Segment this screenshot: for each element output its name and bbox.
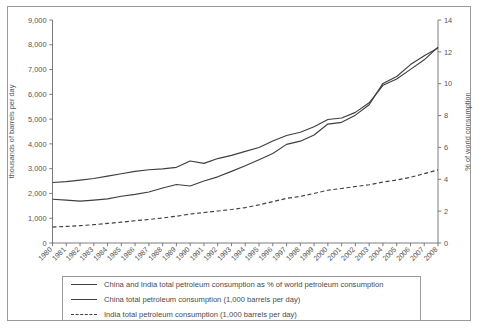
legend-line-swatch-solid-0	[71, 284, 97, 285]
y-axis-right-tick-label: 12	[444, 48, 452, 57]
series-line-0	[53, 47, 439, 182]
y-axis-left-tick-label: 5,000	[28, 115, 47, 124]
y-axis-right-title: % of world consumption	[463, 92, 472, 170]
y-axis-right-tick-label: 14	[444, 16, 452, 25]
y-axis-left-tick-label: 2,000	[28, 189, 47, 198]
y-axis-left-tick-label: 9,000	[28, 16, 47, 25]
y-axis-left-tick-label: 1,000	[28, 214, 47, 223]
y-axis-right-tick-label: 10	[444, 79, 452, 88]
x-axis-tick-label: 2008	[422, 245, 440, 263]
legend-line-swatch-solid-1	[71, 299, 97, 300]
y-axis-left-tick-label: 3,000	[28, 164, 47, 173]
legend-item-1: China total petroleum consumption (1,000…	[63, 292, 420, 307]
y-axis-right-tick-label: 4	[444, 175, 448, 184]
y-axis-left-tick-label: 6,000	[28, 90, 47, 99]
chart-legend: China and India total petroleum consumpt…	[62, 276, 421, 321]
y-axis-left-tick-label: 8,000	[28, 40, 47, 49]
legend-line-swatch-dashed-2	[71, 314, 97, 315]
y-axis-right-tick-label: 8	[444, 111, 448, 120]
y-axis-right-tick-label: 6	[444, 143, 448, 152]
legend-label-2: India total petroleum consumption (1,000…	[104, 310, 297, 319]
series-line-1	[53, 48, 439, 201]
y-axis-right-tick-label: 0	[444, 239, 448, 248]
y-axis-left-tick-label: 4,000	[28, 140, 47, 149]
legend-label-0: China and India total petroleum consumpt…	[104, 280, 383, 289]
y-axis-right-tick-label: 2	[444, 207, 448, 216]
y-axis-left-tick-label: 7,000	[28, 65, 47, 74]
legend-item-2: India total petroleum consumption (1,000…	[63, 307, 420, 322]
legend-label-1: China total petroleum consumption (1,000…	[104, 295, 300, 304]
legend-item-0: China and India total petroleum consumpt…	[63, 277, 420, 292]
y-axis-left-title: thousands of barrels per day	[7, 84, 16, 178]
